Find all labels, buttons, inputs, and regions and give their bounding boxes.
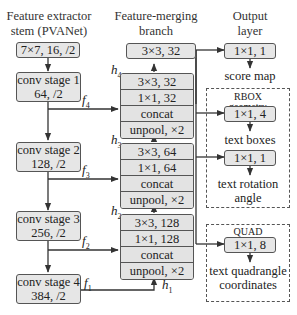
merge-block-h2: 3×3, 128 1×1, 128 concat unpool, ×2 xyxy=(120,214,194,280)
conv-stage-4-box: conv stage 4 384, /2 xyxy=(16,274,81,304)
text-rotation-conv-box: 1×1, 1 xyxy=(224,150,276,166)
merge-block-h4: 3×3, 32 1×1, 32 concat unpool, ×2 xyxy=(120,73,194,139)
score-conv-box: 1×1, 1 xyxy=(224,43,276,59)
stage-name: conv stage 3 xyxy=(17,212,79,226)
merge-cell: concat xyxy=(121,176,193,192)
f3-label: f3 xyxy=(82,162,90,180)
quad-conv-label: 1×1, 8 xyxy=(234,238,266,252)
merge-cell: 1×1, 32 xyxy=(121,90,193,106)
header-line: stem (PVANet) xyxy=(0,24,98,39)
quad-conv-box: 1×1, 8 xyxy=(224,237,276,253)
stage-name: conv stage 4 xyxy=(17,275,79,289)
header-line: Output xyxy=(222,9,278,24)
text-rotation-label-2: angle xyxy=(206,191,290,205)
score-map-label: score map xyxy=(214,69,286,83)
f1-label: f1 xyxy=(84,275,92,293)
stem-conv-label: 7×7, 16, /2 xyxy=(21,43,75,57)
header-line: branch xyxy=(108,24,204,39)
quad-label-2: coordinates xyxy=(206,278,290,292)
h1-label: h1 xyxy=(162,277,173,295)
merge-cell: 3×3, 64 xyxy=(121,144,193,160)
conv-stage-1-box: conv stage 1 64, /2 xyxy=(16,72,81,102)
stage-params: 128, /2 xyxy=(31,157,66,171)
header-line: layer xyxy=(222,24,278,39)
text-rotation-conv-label: 1×1, 1 xyxy=(234,151,266,165)
merging-top-conv-box: 3×3, 32 xyxy=(126,43,196,59)
merge-cell: unpool, ×2 xyxy=(121,122,193,138)
header-feature-extractor: Feature extractor stem (PVANet) xyxy=(0,9,98,39)
stage-params: 64, /2 xyxy=(34,87,62,101)
conv-stage-2-box: conv stage 2 128, /2 xyxy=(16,142,81,172)
stage-name: conv stage 2 xyxy=(17,143,79,157)
conv-stage-3-box: conv stage 3 256, /2 xyxy=(16,211,81,241)
header-output-layer: Output layer xyxy=(222,9,278,39)
merge-cell: 1×1, 128 xyxy=(121,231,193,247)
merge-block-h3: 3×3, 64 1×1, 64 concat unpool, ×2 xyxy=(120,143,194,209)
text-boxes-conv-box: 1×1, 4 xyxy=(224,106,276,122)
merge-cell: concat xyxy=(121,106,193,122)
stem-conv-box: 7×7, 16, /2 xyxy=(16,42,80,58)
merge-cell: 3×3, 128 xyxy=(121,215,193,231)
merging-top-conv-label: 3×3, 32 xyxy=(142,44,180,58)
text-rotation-label: text rotation xyxy=(206,177,290,191)
header-feature-merging: Feature-merging branch xyxy=(108,9,204,39)
header-line: Feature extractor xyxy=(0,9,98,24)
quad-label: text quadrangle xyxy=(206,264,290,278)
text-boxes-conv-label: 1×1, 4 xyxy=(234,107,266,121)
merge-cell: unpool, ×2 xyxy=(121,192,193,208)
stage-params: 256, /2 xyxy=(31,226,66,240)
stage-params: 384, /2 xyxy=(31,289,66,303)
f4-label: f4 xyxy=(82,92,90,110)
score-conv-label: 1×1, 1 xyxy=(234,44,266,58)
f2-label: f2 xyxy=(82,233,90,251)
merge-cell: 1×1, 64 xyxy=(121,160,193,176)
merge-cell: 3×3, 32 xyxy=(121,74,193,90)
text-boxes-label: text boxes xyxy=(210,133,290,147)
stage-name: conv stage 1 xyxy=(17,73,79,87)
merge-cell: unpool, ×2 xyxy=(121,263,193,279)
merge-cell: concat xyxy=(121,247,193,263)
header-line: Feature-merging xyxy=(108,9,204,24)
